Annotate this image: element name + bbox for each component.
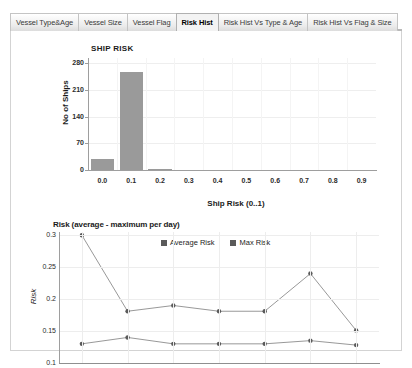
histogram-vertical-gridline: [203, 58, 204, 170]
histogram-y-tick-label: 140: [54, 113, 84, 120]
risk-trend-chart: Risk (average - maximum per day) Risk Av…: [11, 186, 403, 349]
histogram-y-axis-label: No of Ships: [61, 73, 70, 133]
trend-y-tick-label: 0.3: [29, 231, 56, 238]
tab-vessel-type-age[interactable]: Vessel Type&Age: [10, 13, 79, 31]
tab-vessel-size[interactable]: Vessel Size: [78, 13, 128, 31]
histogram-x-axis-line: [88, 170, 377, 171]
histogram-vertical-gridline: [232, 58, 233, 170]
histogram-x-tick-label: 0.8: [321, 177, 345, 184]
histogram-vertical-gridline: [347, 58, 348, 170]
histogram-x-tick-label: 0.7: [292, 177, 316, 184]
histogram-y-tick-mark: [85, 170, 88, 171]
trend-vertical-gridline: [173, 232, 174, 363]
trend-vertical-gridline: [82, 232, 83, 363]
histogram-y-tick-mark: [85, 90, 88, 91]
histogram-x-tick-label: 0.0: [90, 177, 114, 184]
histogram-x-tick-label: 0.9: [350, 177, 374, 184]
histogram-x-tick-label: 0.5: [234, 177, 258, 184]
trend-vertical-gridline: [265, 232, 266, 363]
trend-title: Risk (average - maximum per day): [53, 220, 180, 229]
tab-strip-filler: [397, 13, 402, 30]
ship-risk-histogram-chart: SHIP RISK No of Ships Ship Risk (0..1) 0…: [11, 34, 403, 189]
histogram-bar[interactable]: [120, 72, 143, 170]
histogram-vertical-gridline: [290, 58, 291, 170]
trend-vertical-gridline: [310, 232, 311, 363]
trend-y-tick-label: 0.15: [29, 327, 56, 334]
tab-risk-hist-vs-type-age[interactable]: Risk Hist Vs Type & Age: [218, 13, 308, 31]
trend-y-tick-label: 0.25: [29, 263, 56, 270]
tab-risk-hist[interactable]: Risk Hist: [176, 13, 219, 31]
histogram-vertical-gridline: [174, 58, 175, 170]
histogram-y-tick-mark: [85, 63, 88, 64]
trend-y-axis-line: [59, 232, 60, 364]
histogram-bar[interactable]: [91, 159, 114, 170]
histogram-y-tick-label: 210: [54, 86, 84, 93]
tab-risk-hist-vs-flag-size[interactable]: Risk Hist Vs Flag & Size: [307, 13, 397, 31]
histogram-y-tick-mark: [85, 117, 88, 118]
histogram-title: SHIP RISK: [91, 44, 134, 53]
trend-x-axis-line: [59, 363, 380, 364]
histogram-vertical-gridline: [318, 58, 319, 170]
histogram-y-tick-label: 0: [54, 166, 84, 173]
histogram-x-tick-label: 0.1: [119, 177, 143, 184]
trend-y-tick-label: 0.1: [29, 359, 56, 366]
histogram-x-tick-label: 0.3: [177, 177, 201, 184]
trend-y-tick-label: 0.2: [29, 295, 56, 302]
histogram-y-tick-mark: [85, 143, 88, 144]
trend-vertical-gridline: [128, 232, 129, 363]
histogram-x-tick-label: 0.2: [148, 177, 172, 184]
histogram-x-tick-label: 0.4: [206, 177, 230, 184]
tab-strip: Vessel Type&Age Vessel Size Vessel Flag …: [10, 13, 402, 31]
trend-vertical-gridline: [356, 232, 357, 363]
tab-vessel-flag[interactable]: Vessel Flag: [127, 13, 177, 31]
histogram-plot-area: [88, 58, 376, 170]
histogram-vertical-gridline: [146, 58, 147, 170]
trend-vertical-gridline: [219, 232, 220, 363]
histogram-vertical-gridline: [261, 58, 262, 170]
tab-content-panel: SHIP RISK No of Ships Ship Risk (0..1) 0…: [10, 31, 402, 351]
histogram-y-axis-line: [88, 58, 89, 171]
trend-plot-area: Average Risk 01-Jul-2009: 0.13Average Ri…: [59, 232, 379, 363]
histogram-vertical-gridline: [117, 58, 118, 170]
histogram-y-tick-label: 280: [54, 59, 84, 66]
histogram-y-tick-label: 70: [54, 139, 84, 146]
histogram-x-tick-label: 0.6: [263, 177, 287, 184]
